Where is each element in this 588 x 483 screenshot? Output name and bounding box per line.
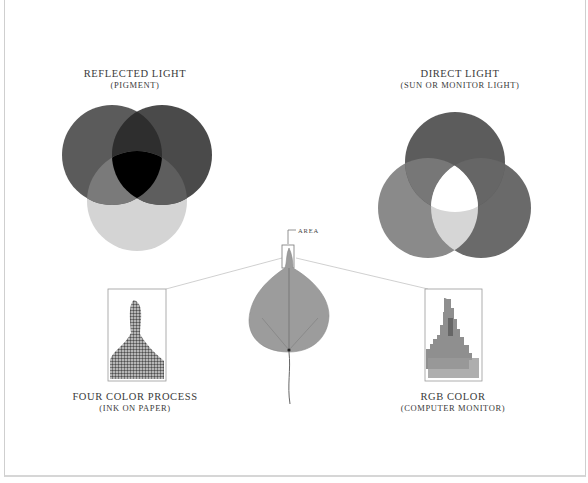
subtractive-venn <box>62 105 212 251</box>
halftone-zoom-box <box>108 289 166 381</box>
area-label: AREA <box>298 227 319 234</box>
four-color-label: FOUR COLOR PROCESS (INK ON PAPER) <box>50 390 220 414</box>
four-color-subtitle: (INK ON PAPER) <box>50 403 220 414</box>
leaf-image <box>249 248 329 404</box>
additive-venn <box>378 112 531 258</box>
rgb-color-subtitle: (COMPUTER MONITOR) <box>378 403 528 414</box>
rgb-color-label: RGB COLOR (COMPUTER MONITOR) <box>378 390 528 414</box>
four-color-title: FOUR COLOR PROCESS <box>50 390 220 403</box>
rgb-color-title: RGB COLOR <box>378 390 528 403</box>
pixel-zoom-box <box>425 289 482 381</box>
